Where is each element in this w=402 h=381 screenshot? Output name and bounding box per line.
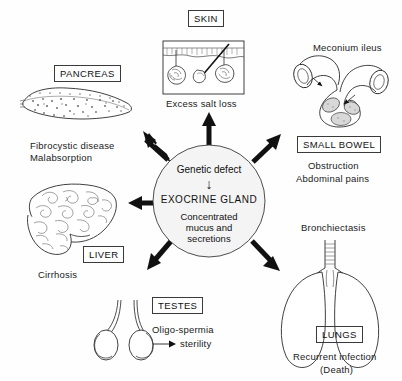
liver-label-box: LIVER [83, 246, 124, 263]
pancreas-label-box: PANCREAS [54, 65, 121, 82]
arrow-to-testes [147, 240, 172, 270]
center-secretions: secretions [157, 233, 261, 245]
testes-sterility-row: sterility [152, 338, 211, 351]
center-down-arrow-icon: ↓ [159, 177, 259, 191]
small-bowel-top-label: Meconium ileus [313, 42, 382, 55]
testes-effect-line2: sterility [180, 338, 211, 351]
small-bowel-effect-line2: Abdominal pains [296, 173, 369, 186]
small-bowel-label-box: SMALL BOWEL [297, 136, 381, 153]
arrow-to-skin [202, 112, 216, 146]
arrow-to-lungs [252, 241, 280, 271]
liver-cirrhosis-illustration [27, 184, 116, 254]
lungs-effect-line2: (Death) [320, 364, 353, 377]
arrow-to-pancreas [143, 131, 171, 163]
lungs-illustration [281, 240, 378, 367]
pancreas-effect-line1: Fibrocystic disease [30, 140, 115, 153]
lungs-top-label: Bronchiectasis [301, 222, 366, 235]
skin-cross-section-illustration [163, 41, 244, 94]
lungs-effect-line1: Recurrent infection [293, 351, 377, 364]
testes-illustration [94, 300, 153, 360]
small-bowel-effect-line1: Obstruction [308, 160, 359, 173]
center-genetic-defect: Genetic defect [159, 164, 259, 175]
lungs-label-box: LUNGS [316, 326, 363, 343]
pancreas-illustration [20, 88, 131, 119]
pancreas-effect-line2: Malabsorption [30, 152, 92, 165]
sterility-arrow-icon [152, 339, 178, 349]
testes-effect-line1: Oligo-spermia [152, 324, 214, 337]
arrow-to-small-bowel [253, 134, 281, 162]
skin-effect-line1: Excess salt loss [166, 98, 237, 111]
skin-label-box: SKIN [188, 10, 224, 27]
center-mucus-and: mucus and [157, 222, 261, 234]
small-bowel-loop-illustration [291, 56, 391, 127]
testes-label-box: TESTES [152, 297, 203, 314]
center-exocrine-gland: EXOCRINE GLAND [149, 194, 269, 205]
cf-organ-diagram: PANCREAS Fibrocystic disease Malabsorpti… [0, 0, 402, 381]
center-concentrated: Concentrated [157, 211, 261, 223]
liver-effect-line1: Cirrhosis [38, 269, 77, 282]
